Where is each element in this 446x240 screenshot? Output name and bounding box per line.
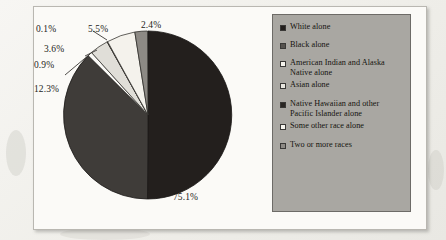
legend-item-some-other-race[interactable]: Some other race alone xyxy=(280,121,406,131)
swatch-two-or-more-icon xyxy=(280,143,286,149)
swatch-american-indian-icon xyxy=(280,61,286,67)
legend-item-white-alone[interactable]: White alone xyxy=(280,22,406,32)
paper-texture-blotch xyxy=(6,130,26,176)
swatch-some-other-race-icon xyxy=(280,124,286,130)
legend-list: White alone Black alone American Indian … xyxy=(273,15,410,211)
pct-label-white-alone: 75.1% xyxy=(173,192,198,202)
pct-label-native-hawaiian: 0.1% xyxy=(36,24,56,34)
screenshot-canvas: 0.1% 5.5% 2.4% 3.6% 0.9% 12.3% 75.1% Whi… xyxy=(0,0,446,240)
legend-item-native-hawaiian[interactable]: Native Hawaiian and other Pacific Island… xyxy=(280,99,406,118)
pie-chart-graphic xyxy=(33,6,273,228)
pct-label-black-alone: 12.3% xyxy=(34,84,59,94)
paper-texture-blotch xyxy=(428,150,444,190)
legend-label-black-alone: Black alone xyxy=(290,40,329,50)
pct-label-asian: 3.6% xyxy=(44,44,64,54)
legend-item-two-or-more[interactable]: Two or more races xyxy=(280,140,406,150)
swatch-asian-icon xyxy=(280,83,286,89)
legend-label-american-indian: American Indian and Alaska Native alone xyxy=(290,58,394,77)
legend-panel: White alone Black alone American Indian … xyxy=(272,14,411,212)
pie-slice-white-alone[interactable] xyxy=(147,31,231,199)
legend-label-asian: Asian alone xyxy=(290,80,329,90)
legend-label-native-hawaiian: Native Hawaiian and other Pacific Island… xyxy=(290,99,402,118)
legend-item-asian[interactable]: Asian alone xyxy=(280,80,406,90)
legend-label-some-other-race: Some other race alone xyxy=(290,121,364,131)
pct-label-two-or-more: 2.4% xyxy=(141,20,161,30)
legend-label-two-or-more: Two or more races xyxy=(290,140,352,150)
legend-item-black-alone[interactable]: Black alone xyxy=(280,40,406,50)
pie-svg xyxy=(33,6,273,228)
swatch-native-hawaiian-icon xyxy=(280,102,286,108)
legend-label-white-alone: White alone xyxy=(290,22,330,32)
pct-label-american-indian: 0.9% xyxy=(34,60,54,70)
pie-chart-figure: 0.1% 5.5% 2.4% 3.6% 0.9% 12.3% 75.1% Whi… xyxy=(33,6,425,228)
pct-label-some-other-race: 5.5% xyxy=(88,24,108,34)
swatch-white-alone-icon xyxy=(280,25,286,31)
legend-item-american-indian[interactable]: American Indian and Alaska Native alone xyxy=(280,58,406,77)
swatch-black-alone-icon xyxy=(280,43,286,49)
